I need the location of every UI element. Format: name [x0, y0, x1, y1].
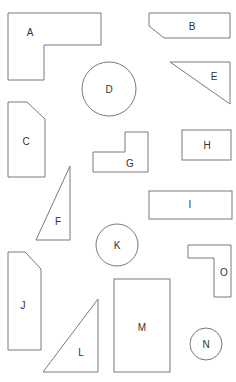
- shape-o-label: O: [220, 267, 228, 278]
- shape-d: D: [82, 62, 136, 116]
- shape-g-label: G: [126, 158, 134, 169]
- shapes-diagram: A B D E C G H: [0, 0, 236, 382]
- shape-n: N: [190, 328, 222, 360]
- shape-h: H: [182, 130, 231, 160]
- shape-a: A: [8, 13, 101, 80]
- shape-c-label: C: [22, 136, 29, 147]
- shape-d-label: D: [105, 84, 112, 95]
- shape-i-label: I: [189, 199, 192, 210]
- shape-l-label: L: [78, 347, 84, 358]
- shape-k-label: K: [114, 240, 121, 251]
- shape-j-label: J: [21, 300, 26, 311]
- shape-b: B: [149, 13, 230, 38]
- diagram-svg: A B D E C G H: [0, 0, 236, 382]
- shape-m: M: [114, 279, 170, 372]
- shape-c: C: [8, 102, 45, 177]
- shape-j: J: [8, 252, 41, 350]
- shape-e: E: [170, 62, 230, 104]
- shape-a-label: A: [27, 27, 34, 38]
- shape-f-label: F: [55, 216, 61, 227]
- shape-g: G: [93, 132, 148, 172]
- shape-k: K: [96, 224, 138, 266]
- shape-o: O: [188, 245, 231, 297]
- shape-e-label: E: [211, 71, 218, 82]
- shape-i: I: [149, 191, 232, 219]
- shape-h-label: H: [203, 140, 210, 151]
- shape-b-label: B: [189, 21, 196, 32]
- shape-m-label: M: [138, 322, 146, 333]
- shape-l: L: [43, 299, 98, 372]
- shape-n-label: N: [202, 339, 209, 350]
